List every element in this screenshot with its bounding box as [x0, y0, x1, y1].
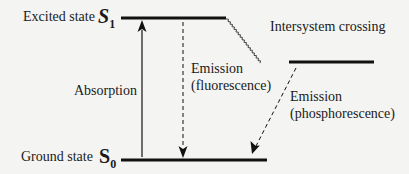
excited-state-symbol: S1 [98, 6, 115, 34]
fluorescence-label-line1: Emission [191, 61, 243, 77]
absorption-label: Absorption [74, 83, 137, 99]
ground-state-symbol: S0 [99, 146, 116, 174]
excited-state-label: Excited state [23, 9, 95, 25]
ground-state-label: Ground state [21, 149, 93, 165]
phosphorescence-label-line1: Emission [290, 89, 342, 105]
intersystem-crossing-label: Intersystem crossing [270, 19, 385, 35]
phosphorescence-label-line2: (phosphorescence) [290, 106, 395, 122]
absorption-arrow [138, 20, 147, 157]
fluorescence-label-line2: (fluorescence) [191, 78, 271, 94]
fluorescence-arrow [179, 22, 188, 158]
intersystem-crossing-wavy-line [226, 19, 261, 63]
